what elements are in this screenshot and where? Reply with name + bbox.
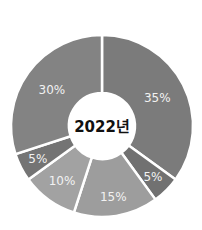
segment-label: 30% bbox=[39, 83, 66, 97]
segment-label: 35% bbox=[144, 91, 171, 105]
segment-label: 10% bbox=[49, 174, 76, 188]
donut-chart: 35%5%15%10%5%30% 2022년 bbox=[0, 0, 202, 230]
segment-label: 5% bbox=[143, 170, 162, 184]
segment-label: 15% bbox=[100, 190, 127, 204]
center-label: 2022년 bbox=[74, 118, 130, 136]
segment-label: 5% bbox=[28, 152, 47, 166]
